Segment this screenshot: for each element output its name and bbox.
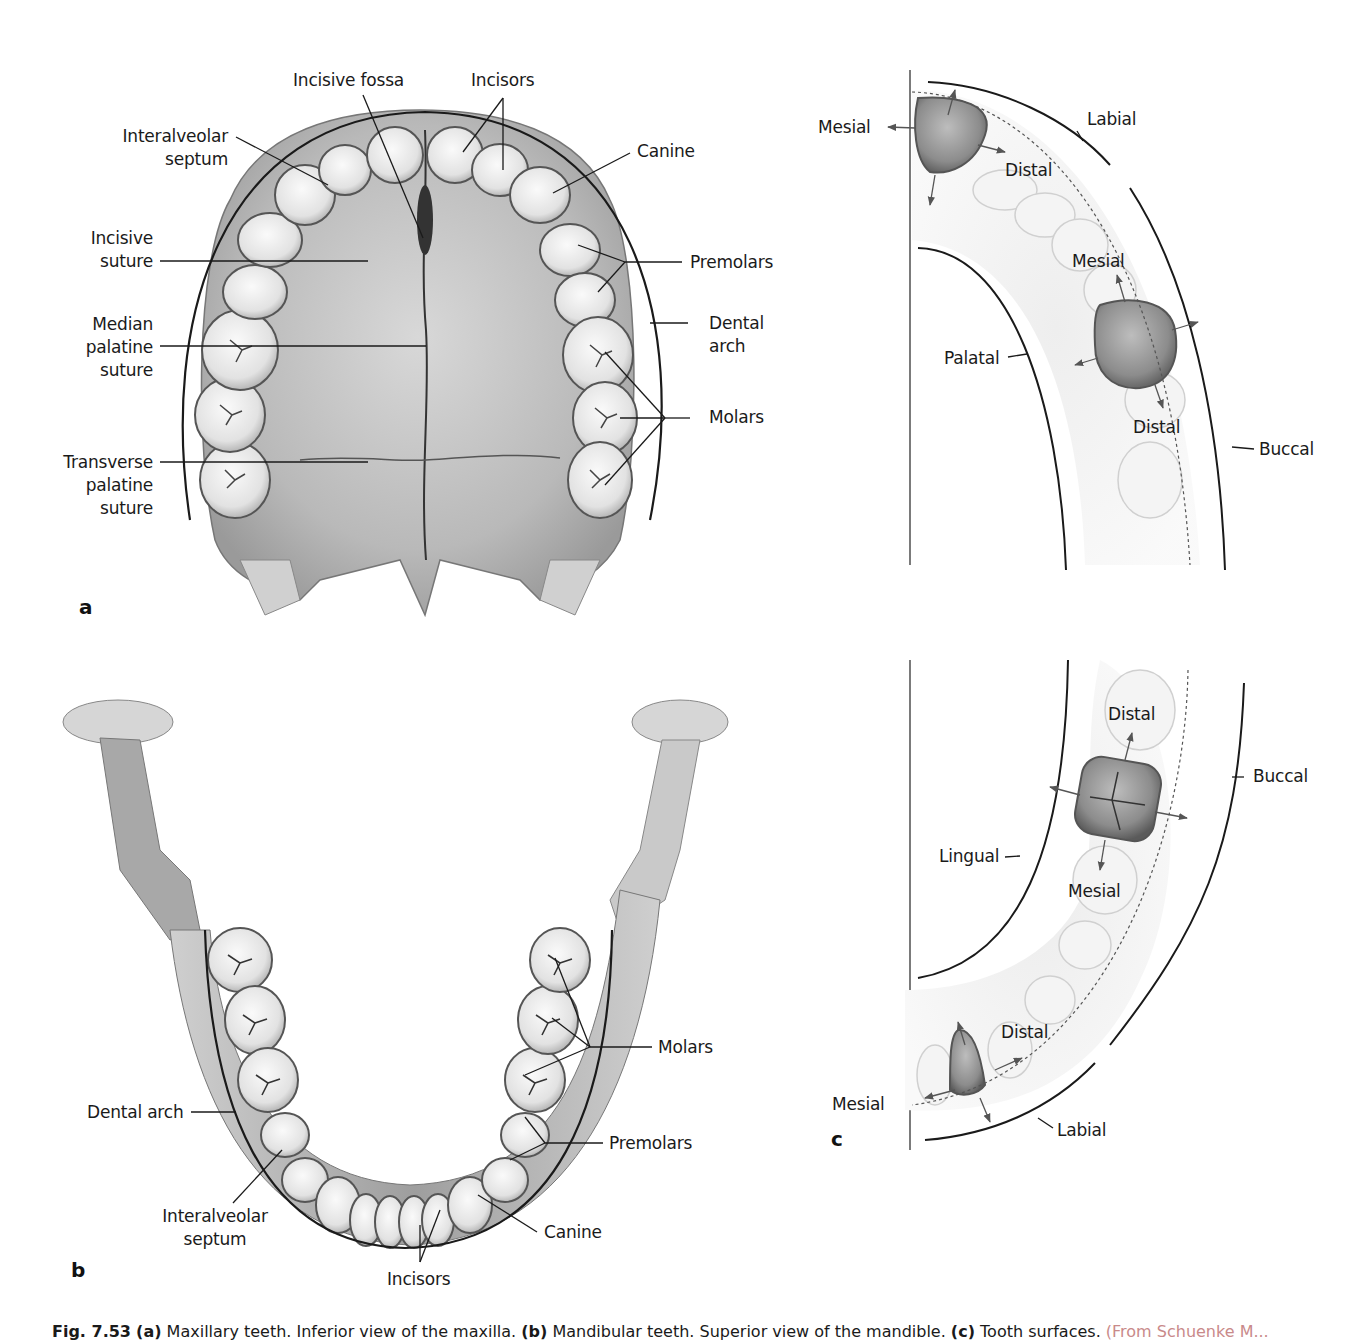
label-canine-b: Canine (544, 1221, 602, 1244)
caption-source: (From Schuenke M... (1106, 1322, 1269, 1341)
label-distal-upper-molar: Distal (1133, 416, 1180, 439)
label-distal-lower-molar: Distal (1108, 703, 1155, 726)
label-molars-b: Molars (658, 1036, 713, 1059)
label-incisors-a: Incisors (471, 69, 534, 92)
label-molars-a: Molars (709, 406, 764, 429)
label-incisors-b: Incisors (387, 1268, 450, 1291)
label-labial-upper: Labial (1087, 108, 1136, 131)
label-dental-arch-a-2: arch (709, 335, 745, 358)
label-canine-a: Canine (637, 140, 695, 163)
label-distal-lower-incisor: Distal (1001, 1021, 1048, 1044)
label-dental-arch-b: Dental arch (87, 1101, 184, 1124)
label-interalveolar-septum-a-2: septum (122, 148, 228, 171)
label-median-palatine-1: Median (70, 313, 153, 336)
label-buccal-lower: Buccal (1253, 765, 1308, 788)
label-median-palatine-2: palatine (70, 336, 153, 359)
label-buccal-upper: Buccal (1259, 438, 1314, 461)
label-mesial-upper-incisor: Mesial (818, 116, 871, 139)
panel-letter-b: b (71, 1258, 85, 1282)
label-mesial-lower-incisor: Mesial (832, 1093, 885, 1116)
caption-c-text: Tooth surfaces. (975, 1322, 1106, 1341)
label-median-palatine-3: suture (70, 359, 153, 382)
caption-c-tag: (c) (951, 1322, 975, 1341)
label-palatal: Palatal (944, 347, 999, 370)
label-incisive-suture-2: suture (70, 250, 153, 273)
surfaces-lower-illustration (905, 660, 1244, 1150)
surfaces-upper-illustration (888, 70, 1254, 570)
label-distal-upper-incisor: Distal (1005, 159, 1052, 182)
caption-a-text: Maxillary teeth. Inferior view of the ma… (162, 1322, 522, 1341)
label-incisive-fossa: Incisive fossa (293, 69, 404, 92)
caption-fig-number: Fig. 7.53 (52, 1322, 131, 1341)
label-transverse-palatine-2: palatine (50, 474, 153, 497)
caption-a-tag: (a) (136, 1322, 161, 1341)
mandible-illustration (63, 700, 728, 1262)
label-interalveolar-septum-b-1: Interalveolar (160, 1205, 270, 1228)
panel-letter-c: c (831, 1127, 843, 1151)
maxilla-illustration (160, 95, 690, 615)
label-labial-lower: Labial (1057, 1119, 1106, 1142)
figure-caption: Fig. 7.53 (a) Maxillary teeth. Inferior … (52, 1322, 1269, 1341)
caption-b-text: Mandibular teeth. Superior view of the m… (547, 1322, 951, 1341)
panel-letter-a: a (79, 595, 93, 619)
caption-b-tag: (b) (521, 1322, 547, 1341)
label-premolars-b: Premolars (609, 1132, 692, 1155)
label-transverse-palatine-3: suture (50, 497, 153, 520)
label-dental-arch-a-1: Dental (709, 312, 764, 335)
label-premolars-a: Premolars (690, 251, 773, 274)
label-transverse-palatine-1: Transverse (50, 451, 153, 474)
label-mesial-upper-molar: Mesial (1072, 250, 1125, 273)
label-lingual: Lingual (939, 845, 999, 868)
label-mesial-lower-molar: Mesial (1068, 880, 1121, 903)
label-interalveolar-septum-b-2: septum (160, 1228, 270, 1251)
label-incisive-suture-1: Incisive (70, 227, 153, 250)
label-interalveolar-septum-a-1: Interalveolar (122, 125, 228, 148)
